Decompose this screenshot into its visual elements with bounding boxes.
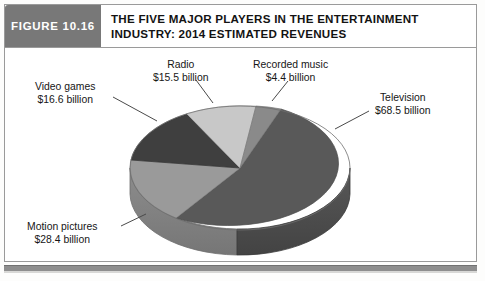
pie-label-video-games-name: Video games xyxy=(35,81,95,94)
figure-title-line-1: THE FIVE MAJOR PLAYERS IN THE ENTERTAINM… xyxy=(111,11,470,27)
figure-frame: FIGURE 10.16 THE FIVE MAJOR PLAYERS IN T… xyxy=(4,4,477,262)
pie-label-recorded-music-name: Recorded music xyxy=(253,59,328,72)
pie-label-recorded-music: Recorded music $4.4 billion xyxy=(253,59,328,84)
pie-label-radio-value: $15.5 billion xyxy=(153,72,208,85)
figure-number-badge: FIGURE 10.16 xyxy=(5,5,101,47)
figure-title: THE FIVE MAJOR PLAYERS IN THE ENTERTAINM… xyxy=(111,5,470,47)
pie-label-television-value: $68.5 billion xyxy=(375,105,430,118)
figure-title-line-2: INDUSTRY: 2014 ESTIMATED REVENUES xyxy=(111,26,470,42)
leader-line-television xyxy=(335,111,369,129)
figure-header: FIGURE 10.16 THE FIVE MAJOR PLAYERS IN T… xyxy=(5,5,476,48)
pie-label-motion-pictures-value: $28.4 billion xyxy=(27,234,97,247)
pie-label-television: Television $68.5 billion xyxy=(375,92,430,117)
pie-label-recorded-music-value: $4.4 billion xyxy=(253,72,328,85)
pie-label-radio-name: Radio xyxy=(153,59,208,72)
pie-label-radio: Radio $15.5 billion xyxy=(153,59,208,84)
pie-chart-area: Video games $16.6 billion Radio $15.5 bi… xyxy=(5,48,476,261)
pie-label-motion-pictures: Motion pictures $28.4 billion xyxy=(27,221,97,246)
pie-label-television-name: Television xyxy=(375,92,430,105)
pie-label-video-games-value: $16.6 billion xyxy=(35,94,95,107)
figure-number-label: FIGURE 10.16 xyxy=(11,20,95,32)
leader-line-video-games xyxy=(113,97,157,121)
figure-bottom-shadow xyxy=(4,271,477,273)
pie-label-video-games: Video games $16.6 billion xyxy=(35,81,95,106)
pie-label-motion-pictures-name: Motion pictures xyxy=(27,221,97,234)
